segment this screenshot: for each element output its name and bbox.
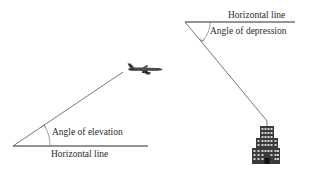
depression-angle-arc: [202, 22, 210, 41]
depression-angle-label: Angle of depression: [210, 27, 287, 37]
airplane-icon: [128, 64, 163, 75]
elevation-arc-arrowhead: [42, 125, 46, 129]
depression-sight-line: [185, 22, 267, 121]
building-icon: [252, 126, 280, 164]
elevation-angle-arc: [44, 125, 50, 146]
elevation-horizontal-label: Horizontal line: [51, 150, 108, 160]
depression-horizontal-label: Horizontal line: [228, 11, 285, 21]
elevation-angle-label: Angle of elevation: [52, 128, 123, 138]
depression-figure: [185, 22, 295, 164]
building-door: [265, 158, 270, 164]
